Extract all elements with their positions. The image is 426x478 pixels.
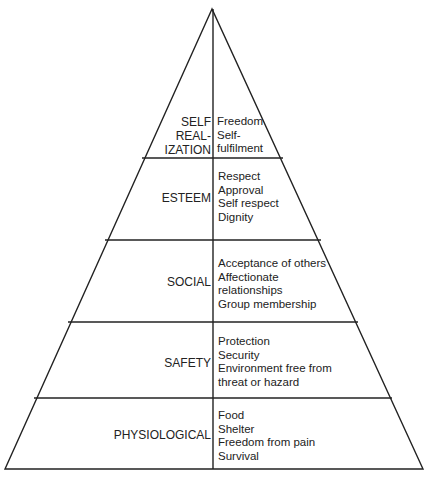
level-item: Security bbox=[218, 349, 332, 363]
label-line: IZATION bbox=[165, 143, 211, 157]
pyramid-triangle bbox=[5, 9, 423, 469]
level-label-safety: SAFETY bbox=[164, 356, 211, 370]
label-line: SOCIAL bbox=[167, 275, 211, 289]
level-item: Acceptance of others bbox=[218, 257, 326, 271]
label-line: ESTEEM bbox=[162, 191, 211, 205]
level-item: Freedom from pain bbox=[218, 436, 315, 450]
level-item: Shelter bbox=[218, 423, 315, 437]
level-items-physiological: Food Shelter Freedom from pain Survival bbox=[218, 409, 315, 463]
level-item: Environment free from bbox=[218, 362, 332, 376]
level-item: Self respect bbox=[218, 197, 279, 211]
level-item: Survival bbox=[218, 450, 315, 464]
level-items-self-realization: Freedom Self- fulfilment bbox=[217, 115, 263, 156]
level-item: fulfilment bbox=[217, 142, 263, 156]
level-item: Respect bbox=[218, 170, 279, 184]
level-item: Freedom bbox=[217, 115, 263, 129]
level-label-esteem: ESTEEM bbox=[162, 191, 211, 205]
level-items-social: Acceptance of others Affectionate relati… bbox=[218, 257, 326, 311]
level-item: Group membership bbox=[218, 298, 326, 312]
level-items-safety: Protection Security Environment free fro… bbox=[218, 335, 332, 389]
pyramid-outline bbox=[0, 0, 426, 478]
level-item: Self- bbox=[217, 129, 263, 143]
level-label-physiological: PHYSIOLOGICAL bbox=[114, 428, 211, 442]
level-item: Protection bbox=[218, 335, 332, 349]
level-label-social: SOCIAL bbox=[167, 275, 211, 289]
level-items-esteem: Respect Approval Self respect Dignity bbox=[218, 170, 279, 224]
level-label-self-realization: SELF REAL- IZATION bbox=[165, 115, 211, 157]
label-line: SAFETY bbox=[164, 356, 211, 370]
level-item: Food bbox=[218, 409, 315, 423]
label-line: SELF bbox=[165, 115, 211, 129]
level-item: Dignity bbox=[218, 211, 279, 225]
label-line: PHYSIOLOGICAL bbox=[114, 428, 211, 442]
level-item: Affectionate bbox=[218, 271, 326, 285]
label-line: REAL- bbox=[165, 129, 211, 143]
level-item: Approval bbox=[218, 184, 279, 198]
level-item: threat or hazard bbox=[218, 376, 332, 390]
level-item: relationships bbox=[218, 284, 326, 298]
